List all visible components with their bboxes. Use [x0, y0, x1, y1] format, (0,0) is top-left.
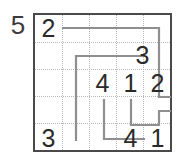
clue-cell-r5c4[interactable]: 4 — [117, 125, 144, 152]
clue-cell-r3c4[interactable]: 2 — [144, 70, 171, 97]
puzzle-root: 5 2 3 4 1 2 3 4 1 — [0, 0, 183, 161]
grid-size-label: 5 — [6, 10, 30, 40]
clue-cell-r3c3[interactable]: 1 — [117, 70, 144, 97]
clue-cell-r1c1[interactable]: 2 — [35, 15, 62, 42]
clue-cell-r5c5[interactable]: 1 — [144, 125, 171, 152]
clue-cell-r2c4[interactable]: 3 — [129, 42, 156, 69]
puzzle-grid-frame[interactable]: 2 3 4 1 2 3 4 1 — [33, 13, 172, 152]
clue-cells-layer: 2 3 4 1 2 3 4 1 — [35, 15, 170, 150]
clue-cell-r3c2[interactable]: 4 — [89, 70, 116, 97]
clue-cell-r5c1[interactable]: 3 — [35, 125, 62, 152]
